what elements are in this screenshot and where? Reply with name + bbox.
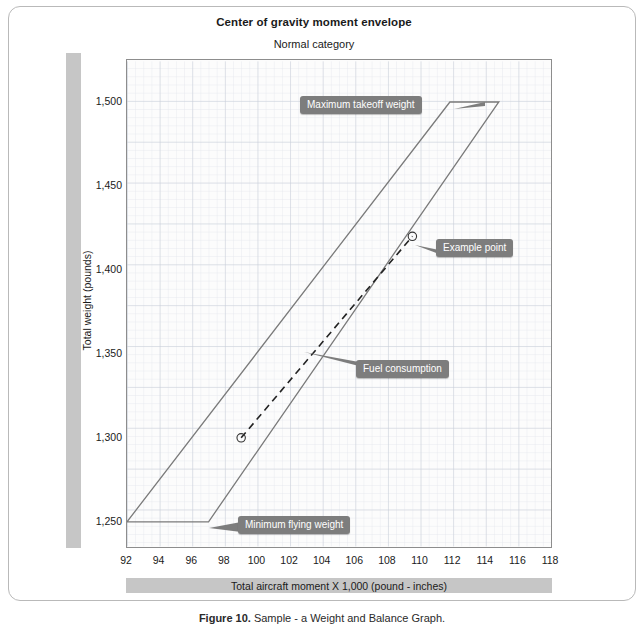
x-axis-title: Total aircraft moment X 1,000 (pound - i…: [231, 580, 447, 592]
y-tick-label: 1,400: [62, 263, 122, 275]
x-tick-labels: 92949698100102104106108110112114116118: [0, 554, 628, 570]
plot-area: [126, 59, 552, 548]
figure-caption-text: Sample - a Weight and Balance Graph.: [251, 612, 445, 624]
callout-fuel-consumption: Fuel consumption: [356, 360, 449, 378]
y-tick-labels: 1,2501,3001,3501,4001,4501,500: [56, 0, 122, 595]
plot-svg: [127, 60, 551, 547]
callout-example-point: Example point: [436, 239, 513, 257]
callout-max-takeoff-weight: Maximum takeoff weight: [300, 96, 422, 114]
grid-major: [127, 61, 551, 546]
callout-minimum-flying-weight: Minimum flying weight: [238, 516, 350, 534]
y-tick-label: 1,250: [62, 515, 122, 527]
y-tick-label: 1,500: [62, 95, 122, 107]
x-axis-title-bar: Total aircraft moment X 1,000 (pound - i…: [126, 578, 552, 593]
figure-root: Center of gravity moment envelope Normal…: [0, 0, 644, 635]
x-tick-label: 118: [530, 554, 570, 566]
figure-caption-prefix: Figure 10.: [199, 612, 251, 624]
figure-caption: Figure 10. Sample - a Weight and Balance…: [0, 612, 644, 624]
y-tick-label: 1,300: [62, 431, 122, 443]
y-tick-label: 1,450: [62, 179, 122, 191]
y-tick-label: 1,350: [62, 347, 122, 359]
